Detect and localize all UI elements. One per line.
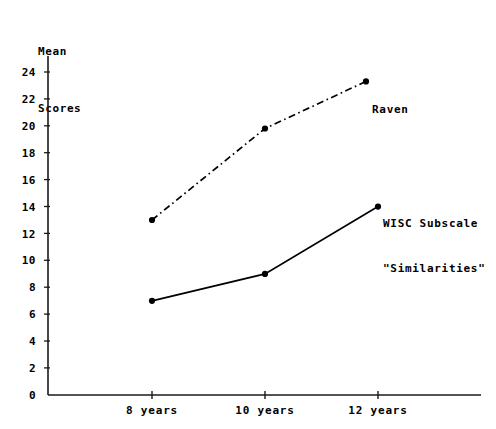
x-tick-label: 12 years bbox=[348, 404, 407, 417]
series-line-raven bbox=[152, 81, 366, 220]
y-tick-label: 16 bbox=[14, 173, 36, 186]
data-point-marker bbox=[262, 271, 268, 277]
series-annotation-wisc-line-1: WISC Subscale bbox=[383, 216, 486, 231]
data-point-marker bbox=[262, 125, 268, 131]
data-point-marker bbox=[375, 204, 381, 210]
chart-container: Mean Scores bbox=[0, 0, 496, 429]
y-tick-label: 8 bbox=[14, 281, 36, 294]
y-tick-label: 0 bbox=[14, 389, 36, 402]
y-tick-label: 22 bbox=[14, 92, 36, 105]
y-tick-label: 12 bbox=[14, 227, 36, 240]
series-annotation-wisc-line-2: "Similarities" bbox=[383, 261, 486, 276]
series-markers-wisc bbox=[149, 204, 381, 304]
series-annotation-raven: Raven bbox=[372, 72, 409, 147]
y-tick-label: 24 bbox=[14, 66, 36, 79]
data-point-marker bbox=[363, 78, 369, 84]
series-annotation-wisc: WISC Subscale "Similarities" bbox=[383, 186, 486, 306]
x-tick-label: 10 years bbox=[235, 404, 294, 417]
y-tick-label: 18 bbox=[14, 146, 36, 159]
y-tick-label: 14 bbox=[14, 200, 36, 213]
y-tick-label: 10 bbox=[14, 254, 36, 267]
y-tick-label: 6 bbox=[14, 308, 36, 321]
y-tick-label: 4 bbox=[14, 335, 36, 348]
series-annotation-raven-label: Raven bbox=[372, 102, 409, 117]
y-tick-label: 2 bbox=[14, 362, 36, 375]
series-markers-raven bbox=[149, 78, 369, 223]
y-tick-marks bbox=[44, 72, 50, 368]
data-point-marker bbox=[149, 217, 155, 223]
series-line-wisc bbox=[152, 207, 378, 301]
y-tick-label: 20 bbox=[14, 119, 36, 132]
data-point-marker bbox=[149, 298, 155, 304]
x-tick-label: 8 years bbox=[126, 404, 178, 417]
